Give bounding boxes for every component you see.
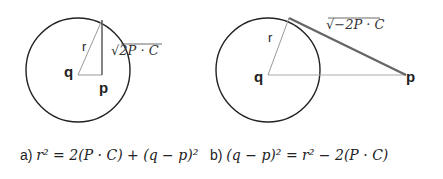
point-label-b: p (406, 68, 415, 85)
center-label-b: q (254, 68, 263, 85)
segment-label-a: √2P · C (111, 43, 159, 58)
tangent-label-b: √−2P · C (326, 17, 385, 32)
radius-line-b (268, 18, 289, 75)
caption-a-formula: r² = 2(P · C) + (q − p)² (36, 147, 198, 163)
point-label-a: p (99, 79, 108, 96)
circle-a (26, 18, 130, 122)
caption-b-formula: (q − p)² = r² − 2(P · C) (226, 147, 388, 163)
caption-a-prefix: a) (20, 147, 32, 163)
caption-b-prefix: b) (210, 147, 222, 163)
radius-label-a: r (82, 39, 86, 54)
caption-a: a) r² = 2(P · C) + (q − p)² (20, 147, 198, 163)
center-label-a: q (64, 63, 73, 80)
caption-b: b) (q − p)² = r² − 2(P · C) (210, 147, 388, 163)
radius-label-b: r (268, 30, 272, 45)
